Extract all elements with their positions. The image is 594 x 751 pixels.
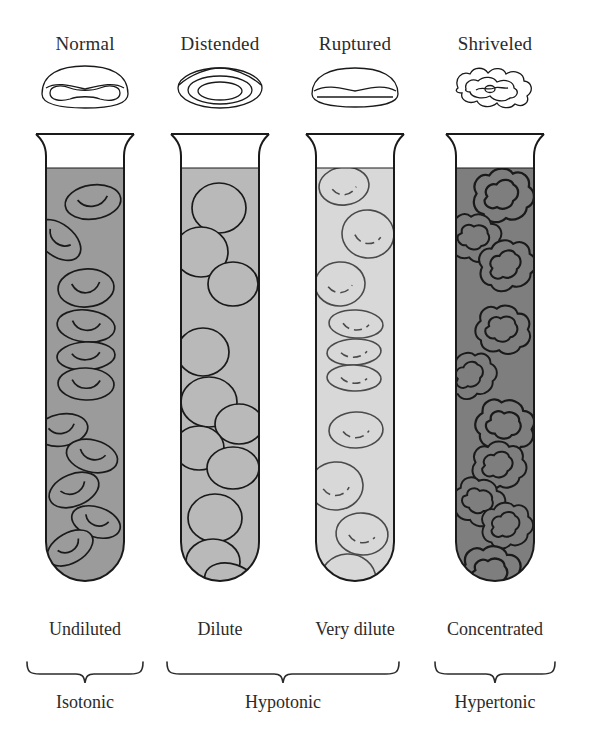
tonicity-label-isotonic: Isotonic bbox=[24, 692, 146, 713]
cell-state-label: Shriveled bbox=[421, 33, 569, 55]
shriveled-crenated-cell-icon bbox=[421, 58, 569, 114]
cell-state-label: Normal bbox=[11, 33, 159, 55]
ruptured-flattened-cell-icon bbox=[281, 58, 429, 114]
normal-biconcave-cell-icon bbox=[11, 58, 159, 114]
osmosis-diagram: Normal bbox=[0, 0, 594, 751]
cell-state-label: Distended bbox=[146, 33, 294, 55]
column-shriveled: Shriveled bbox=[421, 0, 569, 751]
solution-label: Very dilute bbox=[281, 619, 429, 640]
test-tube-shriveled bbox=[421, 130, 569, 612]
test-tube-distended bbox=[146, 130, 294, 612]
solution-label: Dilute bbox=[146, 619, 294, 640]
column-ruptured: Ruptured bbox=[281, 0, 429, 751]
brace-hypotonic bbox=[164, 660, 402, 686]
column-distended: Distended bbox=[146, 0, 294, 751]
test-tube-ruptured bbox=[281, 130, 429, 612]
brace-isotonic bbox=[24, 660, 146, 686]
solution-label: Concentrated bbox=[421, 619, 569, 640]
column-normal: Normal bbox=[11, 0, 159, 751]
distended-swollen-cell-icon bbox=[146, 58, 294, 114]
cell-state-label: Ruptured bbox=[281, 33, 429, 55]
brace-hypertonic bbox=[432, 660, 558, 686]
test-tube-normal bbox=[11, 130, 159, 612]
solution-label: Undiluted bbox=[11, 619, 159, 640]
tonicity-label-hypertonic: Hypertonic bbox=[432, 692, 558, 713]
tonicity-label-hypotonic: Hypotonic bbox=[164, 692, 402, 713]
